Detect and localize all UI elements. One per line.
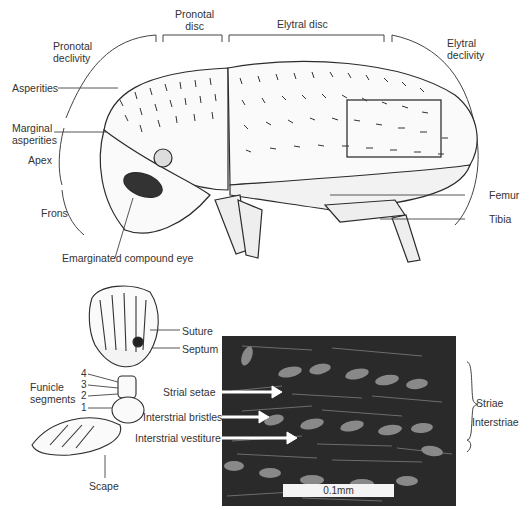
label-line: Pronotal (175, 8, 214, 20)
beetle-illustration (100, 61, 477, 262)
label-asperities: Asperities (12, 82, 58, 94)
label-line: Funicle (30, 381, 76, 393)
interstriae-bracket-end (467, 440, 471, 452)
label-line: asperities (12, 134, 57, 146)
label-segment-2: 2 (81, 390, 87, 402)
label-funicle-segments: Funicle segments (30, 381, 76, 405)
label-scape: Scape (89, 480, 119, 492)
label-tibia: Tibia (489, 213, 511, 225)
sem-micrograph (222, 336, 456, 506)
label-septum: Septum (182, 343, 218, 355)
label-line: Pronotal (53, 40, 92, 52)
pronotal-disc-bracket (163, 35, 222, 42)
label-suture: Suture (182, 325, 213, 337)
label-interstrial-bristles: Interstrial bristles (143, 411, 222, 423)
sem-texture (222, 336, 456, 506)
label-striae: Striae (476, 397, 503, 409)
label-femur: Femur (489, 189, 519, 201)
label-pronotal-declivity: Pronotal declivity (53, 40, 92, 64)
seg2-leader (88, 394, 118, 396)
label-strial-setae: Strial setae (163, 386, 216, 398)
label-marginal-asperities: Marginal asperities (12, 122, 57, 146)
label-line: Marginal (12, 122, 57, 134)
elytral-disc-bracket (229, 35, 384, 42)
label-frons: Frons (41, 207, 68, 219)
label-line: segments (30, 393, 76, 405)
seg3-leader (88, 385, 118, 388)
antenna-illustration (32, 286, 158, 455)
label-segment-1: 1 (81, 402, 87, 414)
label-interstriae: Interstriae (472, 416, 519, 428)
scale-bar: 0.1mm (283, 484, 394, 497)
label-line: disc (175, 20, 214, 32)
label-elytral-disc: Elytral disc (277, 18, 328, 30)
label-line: declivity (53, 52, 92, 64)
label-line: Elytral (447, 37, 484, 49)
apex-arc (59, 128, 64, 185)
label-elytral-declivity: Elytral declivity (447, 37, 484, 61)
label-eye: Emarginated compound eye (62, 252, 193, 264)
seg4-leader (88, 374, 118, 382)
label-interstrial-vestiture: Interstrial vestiture (135, 432, 221, 444)
label-pronotal-disc: Pronotal disc (175, 8, 214, 32)
label-line: declivity (447, 49, 484, 61)
label-apex: Apex (28, 154, 52, 166)
